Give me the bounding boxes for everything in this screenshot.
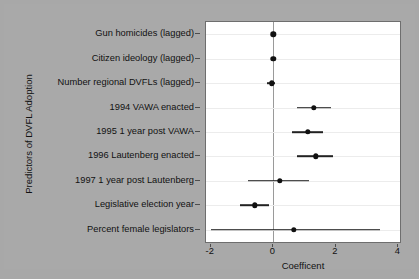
x-axis-ticks: -2024 — [205, 244, 401, 258]
category-label: Percent female legislators — [87, 223, 194, 235]
estimate-point — [305, 129, 310, 134]
category-label: Legislative election year — [95, 198, 194, 210]
gridline — [206, 34, 400, 35]
category-label: 1997 1 year post Lautenberg — [75, 174, 194, 186]
figure-canvas: Predictors of DVFL Adoption Gun homicide… — [4, 4, 415, 269]
x-axis-tick-label: 0 — [270, 246, 275, 256]
category-label: 1996 Lautenberg enacted — [88, 149, 194, 161]
y-axis-tick-mark — [195, 131, 200, 132]
y-axis-tick-mark — [195, 58, 200, 59]
gridline — [206, 83, 400, 84]
x-axis-tick-label: -2 — [206, 246, 214, 256]
x-axis-tick-label: 4 — [395, 246, 400, 256]
category-label: Number regional DVFLs (lagged) — [58, 76, 194, 88]
category-label: 1994 VAWA enacted — [110, 101, 194, 113]
category-label: Citizen ideology (lagged) — [92, 52, 194, 64]
forest-plot-figure: Predictors of DVFL Adoption Gun homicide… — [0, 0, 419, 279]
estimate-point — [271, 56, 276, 61]
estimate-point — [313, 154, 318, 159]
estimate-point — [277, 178, 282, 183]
x-axis-title: Coefficent — [205, 260, 401, 271]
gridline — [206, 59, 400, 60]
plot-panel — [205, 21, 401, 243]
estimate-point — [291, 227, 296, 232]
category-label-column: Gun homicides (lagged)Citizen ideology (… — [24, 21, 200, 243]
y-axis-tick-mark — [195, 229, 200, 230]
x-axis-tick-label: 2 — [332, 246, 337, 256]
y-axis-tick-mark — [195, 155, 200, 156]
y-axis-tick-mark — [195, 33, 200, 34]
category-label: Gun homicides (lagged) — [95, 27, 194, 39]
y-axis-tick-mark — [195, 180, 200, 181]
estimate-point — [252, 203, 257, 208]
y-axis-tick-mark — [195, 107, 200, 108]
gridline — [206, 205, 400, 206]
estimate-point — [271, 32, 276, 37]
estimate-point — [311, 105, 316, 110]
y-axis-tick-mark — [195, 204, 200, 205]
category-label: 1995 1 year post VAWA — [96, 125, 194, 137]
y-axis-tick-mark — [195, 82, 200, 83]
